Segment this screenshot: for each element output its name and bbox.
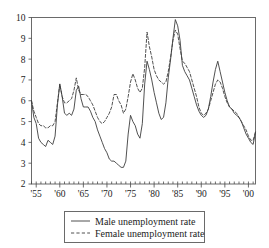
legend-label-male: Male unemployment rate [95,216,196,227]
y-tick-label-10: 10 [16,13,26,23]
y-tick-label-5: 5 [21,117,26,127]
y-tick-label-3: 3 [21,159,26,169]
y-tick-label-8: 8 [21,55,26,65]
chart-canvas: 2345678910 '55'60'65'70'75'80'85'90'95'0… [0,0,269,248]
legend-label-female: Female unemployment rate [95,228,205,239]
y-tick-label-6: 6 [21,96,26,106]
x-tick-label-1985: '85 [172,189,183,199]
x-tick-label-1980: '80 [149,189,160,199]
x-tick-label-1960: '60 [54,189,65,199]
y-tick-label-2: 2 [21,179,26,189]
y-tick-label-4: 4 [21,138,26,148]
x-axis-major-tick-marks [36,184,248,188]
y-tick-label-7: 7 [21,75,26,85]
x-tick-label-1975: '75 [125,189,136,199]
legend: Male unemployment rate Female unemployme… [65,212,205,243]
unemployment-rate-chart-figure: 2345678910 '55'60'65'70'75'80'85'90'95'0… [0,0,269,248]
x-tick-label-1995: '95 [219,189,230,199]
series-line-male [32,20,256,168]
x-tick-label-1970: '70 [101,189,112,199]
x-axis-tick-labels: '55'60'65'70'75'80'85'90'95'00 [31,189,255,199]
y-axis-tick-labels: 2345678910 [16,13,26,190]
x-tick-label-1955: '55 [31,189,42,199]
x-tick-label-1965: '65 [78,189,89,199]
x-tick-label-1990: '90 [196,189,207,199]
y-tick-label-9: 9 [21,34,26,44]
series-line-female [32,30,256,140]
x-tick-label-2000: '00 [243,189,254,199]
data-series-group [32,20,256,168]
